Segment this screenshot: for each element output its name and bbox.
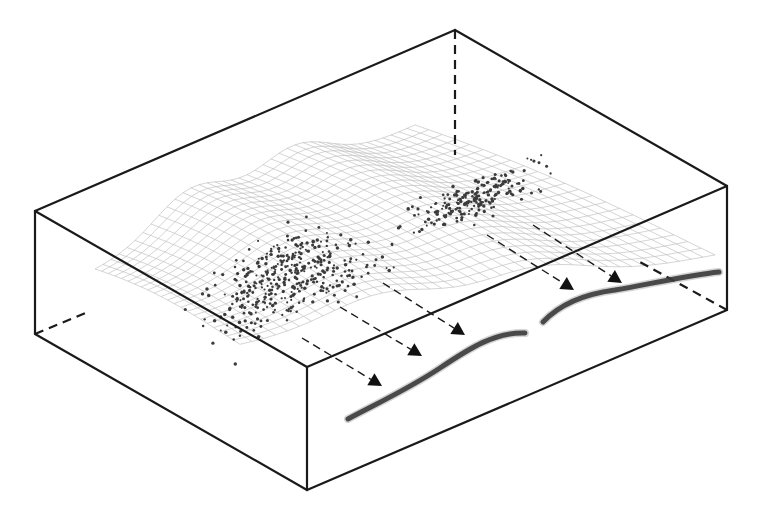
- data-point: [448, 207, 451, 210]
- data-point: [545, 165, 548, 168]
- data-point: [298, 301, 301, 304]
- data-point: [443, 223, 446, 226]
- mesh-col: [327, 143, 584, 266]
- data-point: [284, 246, 286, 248]
- data-point: [252, 270, 254, 272]
- data-point: [507, 182, 509, 184]
- data-point: [256, 317, 259, 320]
- data-point: [281, 314, 283, 316]
- data-point: [293, 292, 296, 295]
- data-point: [468, 213, 470, 215]
- data-point: [336, 284, 339, 287]
- data-point: [266, 306, 268, 308]
- data-point: [360, 276, 363, 279]
- data-point: [247, 285, 250, 288]
- data-point: [351, 270, 354, 273]
- data-point: [287, 239, 290, 242]
- data-point: [248, 289, 251, 292]
- figure-canvas: [0, 0, 757, 518]
- data-point: [305, 215, 308, 218]
- data-point: [366, 264, 369, 267]
- projection-arrows: [302, 225, 622, 386]
- data-point: [430, 206, 432, 208]
- data-point: [300, 282, 302, 284]
- data-point: [313, 281, 315, 283]
- data-point: [320, 241, 322, 243]
- data-point: [265, 256, 268, 259]
- data-point: [332, 286, 335, 289]
- data-point: [284, 265, 287, 268]
- data-point: [314, 265, 316, 267]
- data-point: [443, 214, 446, 217]
- data-point: [333, 294, 336, 297]
- data-point: [323, 254, 326, 257]
- data-point: [456, 201, 458, 203]
- data-point: [231, 303, 234, 306]
- data-point: [235, 292, 238, 295]
- data-point: [298, 256, 301, 259]
- data-point: [362, 253, 365, 256]
- data-point: [488, 201, 490, 203]
- mesh-row: [207, 222, 647, 324]
- data-point: [319, 273, 322, 276]
- data-point: [264, 262, 267, 265]
- data-point: [258, 280, 262, 284]
- data-point: [263, 288, 265, 290]
- data-point: [298, 290, 301, 293]
- data-point: [540, 154, 542, 156]
- data-point: [322, 282, 325, 285]
- data-point: [221, 273, 224, 276]
- data-point: [303, 287, 307, 291]
- data-point: [277, 263, 279, 265]
- projection-arrow-5: [533, 225, 611, 276]
- data-point: [471, 195, 473, 197]
- data-point: [483, 191, 486, 194]
- data-point: [233, 278, 236, 281]
- data-point: [339, 233, 342, 236]
- data-point: [452, 210, 455, 213]
- data-point: [351, 275, 354, 278]
- data-point: [261, 286, 263, 288]
- data-point: [250, 321, 253, 324]
- data-point: [302, 269, 304, 271]
- data-point: [299, 243, 302, 246]
- data-point: [294, 251, 296, 253]
- data-point: [283, 283, 286, 286]
- data-point: [494, 184, 497, 187]
- data-point: [288, 269, 292, 273]
- data-point: [272, 273, 275, 276]
- data-point: [443, 197, 445, 199]
- mesh-row: [187, 202, 606, 311]
- data-point: [326, 245, 328, 247]
- data-point: [303, 297, 305, 299]
- data-point: [349, 238, 353, 242]
- data-point: [322, 290, 324, 292]
- data-point: [317, 245, 320, 248]
- data-point: [332, 267, 335, 270]
- data-point: [286, 301, 288, 303]
- data-point: [257, 298, 259, 300]
- data-point: [297, 236, 300, 239]
- data-point: [236, 297, 238, 299]
- data-point: [348, 244, 351, 247]
- data-point: [504, 174, 507, 177]
- data-point: [245, 281, 248, 284]
- data-point: [265, 271, 267, 273]
- data-point: [286, 260, 289, 263]
- data-point: [332, 270, 335, 273]
- data-point: [245, 326, 248, 329]
- data-point: [489, 188, 492, 191]
- data-point: [438, 218, 440, 220]
- data-point: [288, 279, 290, 281]
- data-point: [296, 282, 299, 285]
- data-point: [519, 190, 521, 192]
- data-point: [266, 277, 268, 279]
- data-point: [508, 187, 510, 189]
- data-point: [226, 324, 228, 326]
- data-point: [306, 279, 309, 282]
- wavy-surface-mesh: [95, 125, 715, 344]
- projection-arrow-3: [383, 283, 454, 328]
- data-point: [247, 301, 250, 304]
- data-point: [239, 299, 241, 301]
- data-point: [294, 243, 297, 246]
